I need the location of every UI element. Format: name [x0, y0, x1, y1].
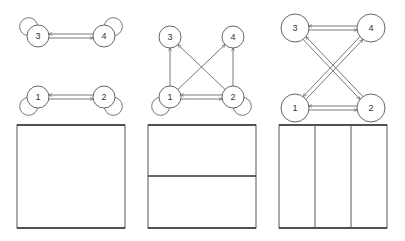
edge-1-4	[303, 37, 363, 99]
node-label: 1	[292, 103, 297, 113]
partition-boxes	[17, 125, 387, 228]
node-label: 3	[167, 32, 172, 42]
node-label: 4	[101, 31, 106, 41]
state-node-1: 1	[159, 86, 181, 108]
state-node-4: 4	[222, 26, 244, 48]
diagram-canvas: 341234123412	[0, 0, 405, 241]
state-node-3: 3	[281, 14, 309, 42]
state-node-4: 4	[93, 25, 115, 47]
state-graph-figure: 341234123412	[0, 0, 405, 241]
node-label: 4	[230, 32, 235, 42]
edge-3-4	[309, 26, 357, 30]
state-node-3: 3	[159, 26, 181, 48]
node-label: 1	[167, 92, 172, 102]
node-label: 3	[35, 31, 40, 41]
edge-3-4	[49, 34, 93, 38]
node-label: 3	[292, 23, 297, 33]
node-label: 2	[101, 92, 106, 102]
node-label: 1	[35, 92, 40, 102]
partition-box-3	[279, 125, 387, 228]
edge-1-2	[309, 106, 357, 110]
partition-outline	[279, 125, 387, 228]
node-label: 2	[368, 103, 373, 113]
edge-1-2	[49, 95, 93, 99]
state-node-2: 2	[357, 94, 385, 122]
node-label: 2	[230, 92, 235, 102]
edge-1-2	[181, 95, 222, 99]
state-node-2: 2	[93, 86, 115, 108]
partition-box-2	[148, 125, 256, 228]
state-node-2: 2	[222, 86, 244, 108]
edge-3-2	[303, 37, 363, 99]
arrow-forward	[306, 40, 363, 100]
partition-box-1	[17, 125, 125, 228]
state-node-4: 4	[357, 14, 385, 42]
arrow-backward	[306, 37, 363, 97]
self-loops	[20, 18, 252, 116]
arrow-forward	[303, 40, 360, 100]
state-node-1: 1	[281, 94, 309, 122]
arrow-backward	[303, 37, 360, 97]
node-label: 4	[368, 23, 373, 33]
partition-outline	[17, 125, 125, 228]
state-node-3: 3	[27, 25, 49, 47]
state-node-1: 1	[27, 86, 49, 108]
